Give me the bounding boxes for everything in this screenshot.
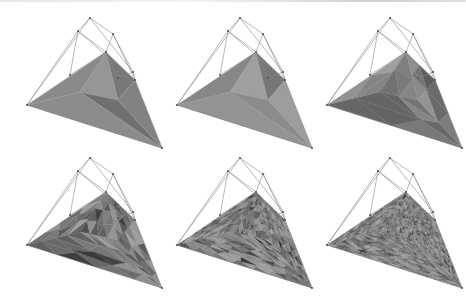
- control-point: [417, 217, 419, 219]
- control-point: [69, 214, 71, 216]
- control-point: [434, 79, 436, 81]
- control-net-edge: [370, 171, 378, 215]
- control-point: [262, 173, 264, 175]
- control-net-edge: [240, 18, 263, 34]
- control-point: [134, 219, 136, 221]
- surface-mesh: [27, 52, 162, 148]
- control-net-edge: [378, 158, 390, 171]
- control-point: [227, 170, 229, 172]
- control-point: [105, 191, 107, 193]
- control-point: [284, 79, 286, 81]
- control-point: [326, 244, 328, 246]
- control-net-edge: [370, 31, 378, 75]
- control-point: [267, 77, 269, 79]
- control-point: [405, 191, 407, 193]
- control-point: [117, 77, 119, 79]
- control-point: [262, 33, 264, 35]
- control-net-edge: [256, 174, 263, 192]
- control-point: [389, 157, 391, 159]
- control-net-edge: [378, 31, 406, 52]
- control-net-edge: [406, 34, 413, 52]
- control-net-edge: [406, 174, 413, 192]
- mesh-panel-3: [300, 0, 466, 150]
- mesh-panel-6: [300, 140, 466, 290]
- control-point: [219, 74, 221, 76]
- control-point: [112, 33, 114, 35]
- control-point: [255, 51, 257, 53]
- control-point: [377, 170, 379, 172]
- control-net-edge: [256, 34, 263, 52]
- control-point: [369, 214, 371, 216]
- control-net-edge: [106, 34, 113, 52]
- control-point: [389, 17, 391, 19]
- control-point: [284, 219, 286, 221]
- control-point: [134, 79, 136, 81]
- surface-mesh: [177, 52, 312, 148]
- control-point: [239, 157, 241, 159]
- surface-mesh: [177, 192, 312, 288]
- control-point: [432, 71, 434, 73]
- mesh-panel-4: [0, 140, 166, 290]
- control-point: [69, 74, 71, 76]
- control-net-edge: [78, 18, 90, 31]
- control-net-edge: [240, 158, 263, 174]
- control-point: [282, 211, 284, 213]
- control-net-edge: [378, 171, 406, 192]
- control-point: [267, 217, 269, 219]
- mesh-refinement-figure: [0, 0, 466, 299]
- control-net-edge: [78, 158, 90, 171]
- control-point: [219, 214, 221, 216]
- control-point: [255, 191, 257, 193]
- control-point: [176, 104, 178, 106]
- surface-mesh: [327, 192, 462, 288]
- control-net-edge: [378, 18, 390, 31]
- control-point: [432, 211, 434, 213]
- control-point: [405, 51, 407, 53]
- control-net-edge: [220, 31, 228, 75]
- control-net-edge: [228, 171, 256, 192]
- control-point: [434, 219, 436, 221]
- control-point: [412, 173, 414, 175]
- control-point: [77, 30, 79, 32]
- control-point: [132, 211, 134, 213]
- control-point: [227, 30, 229, 32]
- control-point: [89, 17, 91, 19]
- control-net-edge: [78, 31, 106, 52]
- control-net-edge: [228, 158, 240, 171]
- control-point: [26, 104, 28, 106]
- surface-mesh: [327, 52, 462, 148]
- control-net-edge: [390, 158, 413, 174]
- control-net-edge: [228, 31, 256, 52]
- control-point: [369, 74, 371, 76]
- control-point: [326, 104, 328, 106]
- control-point: [132, 71, 134, 73]
- control-point: [117, 217, 119, 219]
- control-point: [89, 157, 91, 159]
- mesh-panel-1: [0, 0, 166, 150]
- mesh-panel-5: [150, 140, 316, 290]
- mesh-panel-2: [150, 0, 316, 150]
- control-net-edge: [106, 174, 113, 192]
- surface-mesh: [27, 192, 162, 288]
- control-point: [377, 30, 379, 32]
- control-point: [112, 173, 114, 175]
- control-net-edge: [78, 171, 106, 192]
- control-point: [282, 71, 284, 73]
- control-point: [461, 287, 463, 289]
- control-point: [417, 77, 419, 79]
- control-point: [412, 33, 414, 35]
- control-net-edge: [390, 18, 413, 34]
- control-point: [105, 51, 107, 53]
- control-net-edge: [220, 171, 228, 215]
- control-net-edge: [228, 18, 240, 31]
- control-net-edge: [70, 31, 78, 75]
- control-point: [176, 244, 178, 246]
- control-point: [239, 17, 241, 19]
- control-point: [26, 244, 28, 246]
- control-net-edge: [90, 158, 113, 174]
- control-net-edge: [70, 171, 78, 215]
- control-point: [77, 170, 79, 172]
- control-net-edge: [90, 18, 113, 34]
